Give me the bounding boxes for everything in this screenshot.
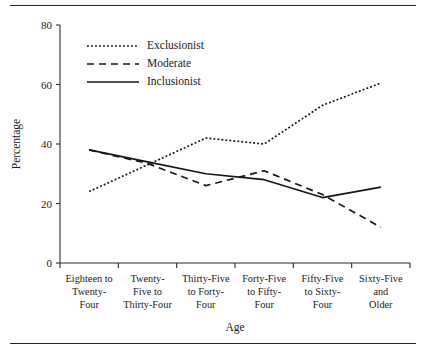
x-tick-label-line: Older [369, 299, 393, 310]
x-tick-label-line: Four [254, 299, 274, 310]
x-tick-label-line: Four [313, 299, 333, 310]
y-axis-tick-labels: 020406080 [41, 19, 53, 269]
x-axis-title: Age [225, 321, 244, 334]
x-tick-label: Twenty-Five toThirty-Four [123, 273, 172, 310]
chart-legend: ExclusionistModerateInclusionist [87, 39, 205, 87]
y-tick-label: 0 [47, 257, 53, 269]
x-tick-label-line: Thirty-Four [123, 299, 172, 310]
series-line-inclusionist [89, 150, 381, 198]
x-tick-label: Fifty-Fiveto Sixty-Four [302, 273, 344, 310]
x-tick-label-line: Forty-Five [242, 273, 286, 284]
y-axis-title: Percentage [10, 119, 23, 169]
x-tick-label: Eighteen toTwenty-Four [66, 273, 113, 310]
x-tick-label-line: Fifty-Five [302, 273, 344, 284]
x-axis-ticks [60, 263, 410, 268]
x-tick-label-line: to Sixty- [305, 286, 341, 297]
series-line-moderate [89, 150, 381, 227]
x-tick-label: Forty-Fiveto Fifty-Four [242, 273, 286, 310]
y-axis-ticks [56, 25, 60, 263]
x-tick-label-line: Sixty-Five [359, 273, 403, 284]
x-tick-label: Thirty-Fiveto Forty-Four [182, 273, 230, 310]
x-tick-label-line: and [373, 286, 389, 297]
x-tick-label: Sixty-FiveandOlder [359, 273, 403, 310]
x-tick-label-line: Twenty- [72, 286, 107, 297]
y-tick-label: 40 [41, 138, 53, 150]
x-tick-label-line: to Fifty- [247, 286, 282, 297]
line-chart: 020406080 Percentage Eighteen toTwenty-F… [0, 0, 425, 350]
y-axis: 020406080 Percentage [10, 19, 60, 269]
x-tick-label-line: to Forty- [188, 286, 225, 297]
y-tick-label: 60 [41, 79, 53, 91]
legend-label-moderate: Moderate [147, 57, 191, 69]
legend-label-exclusionist: Exclusionist [147, 39, 205, 51]
x-tick-label-line: Twenty- [130, 273, 165, 284]
x-axis-tick-labels: Eighteen toTwenty-FourTwenty-Five toThir… [66, 273, 403, 310]
legend-label-inclusionist: Inclusionist [147, 75, 201, 87]
x-tick-label-line: Five to [133, 286, 162, 297]
y-tick-label: 80 [41, 19, 53, 31]
x-tick-label-line: Thirty-Five [182, 273, 230, 284]
x-axis: Eighteen toTwenty-FourTwenty-Five toThir… [60, 263, 410, 334]
x-tick-label-line: Eighteen to [66, 273, 113, 284]
figure-container: 020406080 Percentage Eighteen toTwenty-F… [0, 0, 425, 350]
series-line-exclusionist [89, 83, 381, 192]
y-tick-label: 20 [41, 198, 53, 210]
x-tick-label-line: Four [79, 299, 99, 310]
x-tick-label-line: Four [196, 299, 216, 310]
data-series-group [89, 83, 381, 227]
